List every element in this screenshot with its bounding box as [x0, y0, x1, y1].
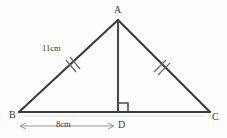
- vertex-label-b: B: [9, 110, 16, 120]
- segment-ab: [19, 20, 118, 112]
- geometry-canvas: [0, 0, 227, 138]
- segment-ac: [118, 20, 210, 112]
- vertex-label-c: C: [212, 112, 219, 122]
- vertex-label-d: D: [118, 120, 125, 130]
- measurement-label-bd: 8cm: [56, 120, 71, 129]
- tick-marks-ab: [66, 57, 80, 72]
- right-angle-marker: [118, 103, 128, 112]
- vertex-label-a: A: [114, 5, 121, 15]
- measurement-label-ab: 11cm: [42, 44, 61, 53]
- tick-marks-ac: [154, 60, 170, 75]
- geometry-figure: A B C D 11cm 8cm: [0, 0, 227, 138]
